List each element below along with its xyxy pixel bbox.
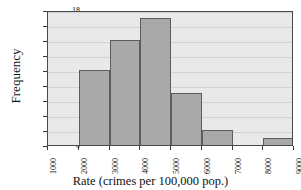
y-axis-title: Frequency [8,16,24,136]
histogram-bar [140,18,171,146]
x-tick-mark [139,146,140,150]
histogram-bar [171,93,202,146]
x-tick-mark [293,146,294,150]
x-tick-mark [109,146,110,150]
gridline-y [48,12,292,13]
x-tick-label: 4000 [142,158,150,174]
x-tick-label: 3000 [112,158,120,174]
histogram-bar [202,130,233,145]
x-tick-mark [47,146,48,150]
plot-area [47,11,293,146]
histogram-figure: Frequency 024681012141618 10002000300040… [0,0,301,190]
chart-title-cropped [0,0,301,7]
histogram-bar [79,70,110,145]
x-tick-mark [262,146,263,150]
x-tick-label: 9000 [296,158,301,174]
x-tick-label: 7000 [235,158,243,174]
x-tick-mark [78,146,79,150]
x-tick-mark [170,146,171,150]
x-tick-label: 5000 [173,158,181,174]
histogram-bar [263,138,293,146]
x-tick-label: 8000 [265,158,273,174]
histogram-bar [110,40,141,145]
x-tick-mark [232,146,233,150]
x-tick-mark [201,146,202,150]
x-tick-label: 2000 [81,158,89,174]
x-tick-label: 1000 [50,158,58,174]
x-axis-title: Rate (crimes per 100,000 pop.) [0,174,301,189]
x-tick-label: 6000 [204,158,212,174]
